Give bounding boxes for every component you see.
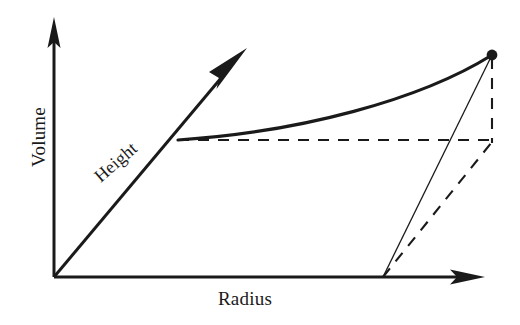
radius-connector-line — [383, 57, 491, 277]
radius-axis — [54, 270, 485, 285]
height-axis-line — [54, 65, 232, 277]
figure-root: Volume Radius Height — [0, 0, 520, 325]
radius-axis-label: Radius — [190, 288, 300, 310]
diagram-canvas — [0, 0, 520, 325]
curve-endpoint-dot — [487, 50, 498, 61]
height-axis — [54, 48, 247, 277]
oblique-projection-line — [383, 142, 492, 277]
volume-axis-label: Volume — [28, 92, 50, 182]
height-axis-arrowhead-icon — [209, 48, 247, 89]
